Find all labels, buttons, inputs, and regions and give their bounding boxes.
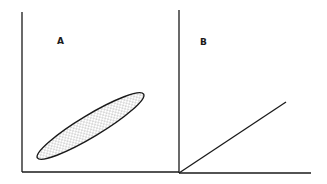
panel-a: A [22,12,179,172]
panel-b-line [179,102,286,173]
panel-a-ellipse [32,85,150,168]
panel-b: B [179,10,311,173]
panel-a-label: A [57,36,64,46]
panel-b-label: B [200,37,207,47]
figure-canvas: A B [0,0,327,184]
